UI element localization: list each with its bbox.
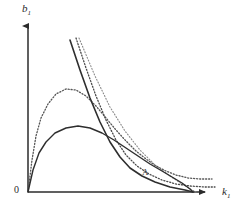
axis-group (28, 26, 205, 192)
point-a-label: A (142, 168, 149, 177)
y-axis-label: b1 (22, 3, 31, 17)
x-axis-label-subscript: 1 (227, 192, 231, 200)
curve-steep-solid-descending-line (70, 40, 193, 192)
curve-dotted-hump-curve (28, 89, 212, 192)
x-axis-label: k1 (222, 186, 230, 200)
figure-container: b1 k1 0 A (0, 0, 242, 216)
origin-label: 0 (14, 185, 19, 195)
y-axis-label-subscript: 1 (28, 9, 32, 17)
curves-group (28, 38, 215, 192)
plot-canvas (0, 0, 242, 216)
